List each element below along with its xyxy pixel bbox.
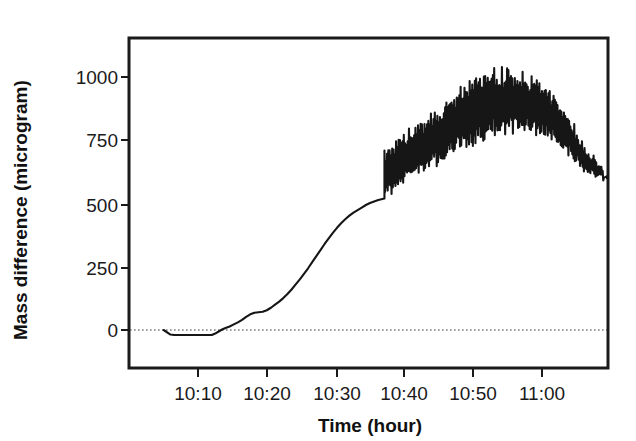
line-chart: Mass difference (microgram) 1000 750 500… (0, 0, 636, 441)
y-tick-label: 0 (107, 320, 118, 341)
x-tick-label: 11:00 (519, 383, 565, 404)
x-tick-label: 10:40 (380, 383, 428, 404)
y-tick-label: 1000 (76, 67, 118, 88)
x-axis-ticks (198, 369, 542, 377)
x-axis-title: Time (hour) (318, 415, 422, 436)
y-axis-ticks (121, 77, 128, 330)
x-tick-label: 10:10 (174, 383, 222, 404)
y-tick-label: 500 (86, 195, 118, 216)
x-tick-label: 10:50 (449, 383, 497, 404)
chart-figure: Mass difference (microgram) 1000 750 500… (0, 0, 636, 441)
x-tick-label: 10:30 (313, 383, 361, 404)
y-tick-labels: 1000 750 500 250 0 (76, 67, 118, 341)
y-axis-title: Mass difference (microgram) (10, 80, 31, 340)
x-tick-labels: 10:10 10:20 10:30 10:40 10:50 11:00 (174, 383, 565, 404)
x-tick-label: 10:20 (243, 383, 291, 404)
y-tick-label: 250 (86, 258, 118, 279)
mass-difference-curve (164, 67, 608, 335)
y-tick-label: 750 (86, 130, 118, 151)
